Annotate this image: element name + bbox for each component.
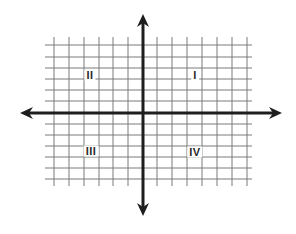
quadrant-label-iv: IV [187, 147, 202, 158]
coordinate-plane-graphic [0, 0, 296, 234]
coordinate-plane: I II III IV [0, 0, 296, 234]
axes [20, 14, 282, 216]
quadrant-label-ii: II [84, 70, 95, 81]
quadrant-label-i: I [191, 70, 199, 81]
quadrant-label-iii: III [84, 146, 99, 157]
